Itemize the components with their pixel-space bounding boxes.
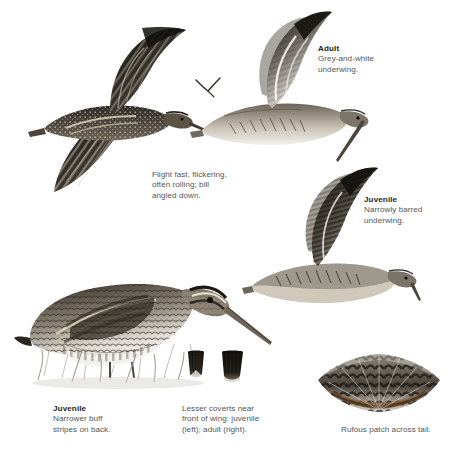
caption-heading: Adult [318,44,438,54]
snipe-distant-silhouette [194,76,226,100]
caption-heading: Juvenile [53,404,163,414]
caption-flight-action: Flight fast, flickering, often rolling; … [152,170,272,201]
caption-body: Lesser coverts near front of wing: juven… [182,404,302,435]
snipe-identification-plate: Adult Grey-and-white underwing. Flight f… [0,0,459,454]
tail-fan [312,336,447,420]
eye [180,117,183,120]
caption-juvenile-standing: Juvenile Narrower buff stripes on back. [53,404,163,435]
caption-body: Rufous patch across tail. [341,425,459,435]
eye [207,297,213,303]
caption-body: Narrower buff stripes on back. [53,414,163,435]
caption-body: Grey-and-white underwing. [318,54,438,75]
caption-adult-underwing: Adult Grey-and-white underwing. [318,44,438,75]
bill [208,91,214,97]
caption-juvenile-underwing: Juvenile Narrowly barred underwing. [364,195,459,226]
caption-body: Flight fast, flickering, often rolling; … [152,170,272,201]
bill [224,306,272,345]
caption-lesser-coverts: Lesser coverts near front of wing: juven… [182,404,302,435]
lesser-covert-adult [219,348,247,388]
eye [404,276,407,279]
caption-body: Narrowly barred underwing. [364,205,459,226]
caption-tail-patch: Rufous patch across tail. [341,425,459,435]
tail-upperside [28,128,46,137]
head-upperside [164,113,193,128]
lesser-covert-juvenile [185,348,209,388]
ground-shadow [32,377,204,389]
tail [14,337,32,347]
eye [356,116,359,119]
caption-heading: Juvenile [364,195,459,205]
wings [196,78,220,91]
tail-underside [190,130,204,138]
bill [410,282,421,301]
